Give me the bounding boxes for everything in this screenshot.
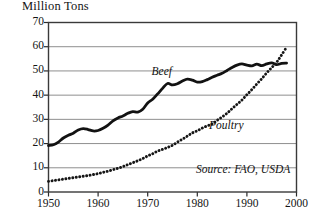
source-note: Source: FAO, USDA	[196, 163, 290, 175]
x-axis-tick-labels: 195019601970198019902000	[0, 0, 313, 222]
series-label-poultry: Poultry	[209, 119, 244, 131]
x-tick-label: 1990	[224, 197, 270, 209]
series-label-beef: Beef	[152, 65, 172, 77]
x-tick-label: 1980	[174, 197, 220, 209]
x-tick-label: 1950	[26, 197, 72, 209]
x-tick-label: 1960	[75, 197, 121, 209]
x-tick-label: 1970	[125, 197, 171, 209]
chart-figure: Million Tons 010203040506070 19501960197…	[0, 0, 313, 222]
x-tick-label: 2000	[274, 197, 314, 209]
